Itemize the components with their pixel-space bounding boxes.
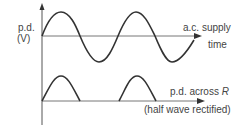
resistor-variable: R [222, 86, 229, 97]
half-wave-pulse-1 [42, 76, 80, 101]
y-axis-arrow-icon [40, 3, 45, 10]
half-wave-pulse-2 [119, 76, 156, 101]
pd-across-text: p.d. across [170, 86, 222, 97]
y-axis-label-pd: p.d. [18, 22, 35, 33]
y-axis-label-unit: (V) [17, 33, 30, 44]
time-axis-arrow-icon [194, 33, 202, 39]
ac-supply-sine-wave [42, 12, 194, 62]
time-axis-top [42, 33, 202, 39]
pd-across-r-label: p.d. across R [170, 86, 229, 97]
half-wave-note: (half wave rectified) [144, 104, 231, 115]
ac-supply-label: a.c. supply [183, 22, 231, 33]
time-axis-label: time [208, 39, 227, 50]
y-axis [40, 3, 45, 125]
